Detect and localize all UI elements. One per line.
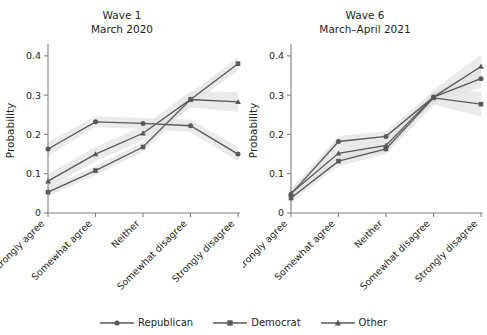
data-point-circle-icon [93, 119, 98, 124]
legend-item-democrat: Democrat [213, 317, 300, 329]
y-tick-label: 0.3 [269, 90, 284, 101]
y-tick-label: 0.2 [26, 129, 41, 140]
legend-item-republican: Republican [100, 317, 193, 329]
data-point-square-icon [479, 102, 484, 107]
data-point-circle-icon [188, 123, 193, 128]
data-point-square-icon [46, 190, 51, 195]
plot-area-wave-1: 00.10.20.30.4ProbabilityStrongly agreeSo… [0, 0, 244, 300]
legend-marker-circle-icon [100, 317, 134, 329]
data-point-circle-icon [236, 152, 241, 157]
y-axis-title: Probability [247, 103, 259, 159]
y-tick-label: 0.1 [269, 168, 284, 179]
data-point-square-icon [336, 159, 341, 164]
panel-wave-6: Wave 6 March–April 2021 00.10.20.30.4Pro… [243, 0, 487, 300]
data-point-square-icon [236, 61, 241, 66]
data-point-square-icon [93, 168, 98, 173]
data-point-square-icon [289, 196, 294, 201]
data-point-circle-icon [336, 139, 341, 144]
y-tick-label: 0 [35, 207, 41, 218]
panel-wave-1: Wave 1 March 2020 00.10.20.30.4Probabili… [0, 0, 244, 300]
y-axis-title: Probability [4, 103, 16, 159]
y-tick-label: 0.1 [26, 168, 41, 179]
x-tick-label: Neither [352, 218, 385, 251]
data-point-circle-icon [384, 134, 389, 139]
legend-label-republican: Republican [138, 317, 193, 329]
y-tick-label: 0.3 [26, 90, 41, 101]
y-tick-label: 0.4 [26, 50, 41, 61]
legend-label-other: Other [359, 317, 387, 329]
y-tick-label: 0.4 [269, 50, 284, 61]
chart-legend: Republican Democrat Other [0, 317, 487, 329]
legend-marker-triangle-icon [321, 317, 355, 329]
data-point-circle-icon [46, 146, 51, 151]
data-point-circle-icon [141, 121, 146, 126]
y-tick-label: 0 [278, 207, 284, 218]
data-point-square-icon [141, 145, 146, 150]
data-point-circle-icon [479, 76, 484, 81]
legend-label-democrat: Democrat [251, 317, 300, 329]
legend-marker-square-icon [213, 317, 247, 329]
x-tick-label: Neither [109, 218, 142, 251]
legend-item-other: Other [321, 317, 387, 329]
plot-area-wave-6: 00.10.20.30.4ProbabilityStrongly agreeSo… [243, 0, 487, 300]
y-tick-label: 0.2 [269, 129, 284, 140]
figure: Wave 1 March 2020 00.10.20.30.4Probabili… [0, 0, 487, 335]
